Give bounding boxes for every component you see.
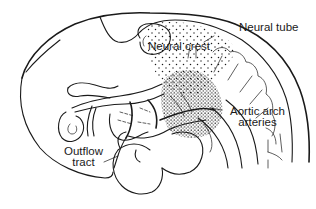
embryo-diagram: Neural tube Neural crest Aortic arch art…	[0, 0, 316, 209]
label-aortic-arch: Aortic arch arteries	[230, 106, 285, 128]
heart-lobes	[113, 132, 203, 194]
head-structures	[59, 83, 164, 141]
label-outflow-line2: tract	[64, 157, 103, 168]
label-neural-tube: Neural tube	[239, 22, 298, 33]
label-outflow-tract: Outflow tract	[64, 146, 103, 168]
label-neural-crest: Neural crest	[148, 41, 210, 52]
label-aortic-arch-line2: arteries	[230, 117, 285, 128]
